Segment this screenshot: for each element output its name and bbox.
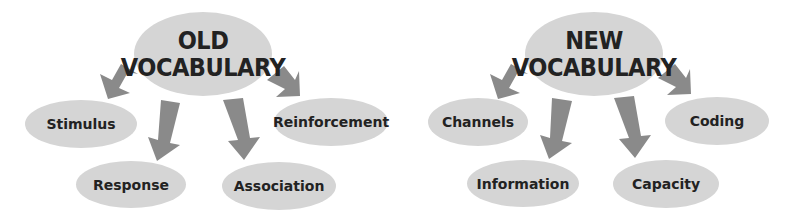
new-vocabulary-title-bubble: NEW VOCABULARY bbox=[525, 12, 663, 96]
old-vocabulary-title-bubble: OLD VOCABULARY bbox=[134, 12, 272, 96]
node-association: Association bbox=[222, 162, 336, 210]
node-reinforcement: Reinforcement bbox=[274, 98, 388, 146]
title-line-1: OLD bbox=[121, 27, 285, 54]
node-label: Association bbox=[234, 178, 325, 194]
node-label: Information bbox=[477, 176, 570, 192]
old-vocabulary-diagram: OLD VOCABULARY Stimulus Response Associa… bbox=[0, 0, 393, 219]
node-label: Reinforcement bbox=[273, 114, 389, 130]
title-line-2: VOCABULARY bbox=[512, 54, 676, 81]
node-label: Response bbox=[93, 177, 169, 193]
node-label: Stimulus bbox=[46, 116, 115, 132]
node-capacity: Capacity bbox=[613, 160, 719, 208]
node-coding: Coding bbox=[665, 97, 769, 145]
node-label: Channels bbox=[442, 114, 514, 130]
node-channels: Channels bbox=[428, 98, 528, 146]
node-label: Coding bbox=[690, 113, 745, 129]
node-response: Response bbox=[76, 161, 186, 208]
title-line-1: NEW bbox=[512, 27, 676, 54]
node-label: Capacity bbox=[632, 176, 700, 192]
title-line-2: VOCABULARY bbox=[121, 54, 285, 81]
new-vocabulary-diagram: NEW VOCABULARY Channels Information Capa… bbox=[400, 0, 787, 219]
node-stimulus: Stimulus bbox=[25, 100, 137, 148]
node-information: Information bbox=[467, 160, 579, 207]
